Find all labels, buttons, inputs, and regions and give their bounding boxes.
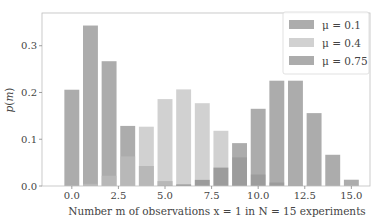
x-axis-label: Number m of observations x = 1 in N = 15…	[68, 205, 366, 217]
binomial-bar-chart: 0.00.10.20.3 0.02.55.07.510.012.515.0 p(…	[0, 0, 384, 221]
bar-series-1-m-7	[195, 103, 210, 186]
bar-series-1-m-3	[120, 156, 135, 186]
x-axis-ticks: 0.02.55.07.510.012.515.0	[64, 186, 363, 201]
bar-series-2-m-8	[213, 168, 228, 186]
y-tick-label: 0.0	[21, 181, 37, 192]
x-tick-label: 0.0	[64, 190, 80, 201]
bar-series-2-m-14	[325, 155, 340, 186]
legend: μ = 0.1μ = 0.4μ = 0.75	[283, 12, 369, 74]
y-axis-label: p(m)	[3, 88, 15, 113]
bar-series-1-m-2	[102, 176, 117, 186]
bar-series-0-m-2	[102, 61, 117, 186]
bar-series-2-m-15	[344, 180, 359, 186]
y-axis-ticks: 0.00.10.20.3	[21, 40, 42, 191]
bar-series-1-m-4	[139, 127, 154, 186]
bar-series-2-m-12	[288, 81, 303, 186]
legend-item-label: μ = 0.75	[322, 55, 368, 67]
x-tick-label: 12.5	[294, 190, 316, 201]
bar-series-0-m-0	[64, 90, 79, 186]
x-tick-label: 7.5	[204, 190, 220, 201]
y-tick-label: 0.3	[21, 40, 37, 51]
bar-series-1-m-5	[158, 99, 173, 186]
bar-series-2-m-11	[269, 81, 284, 186]
bar-series-2-m-13	[307, 113, 322, 186]
bar-series-2-m-9	[232, 143, 247, 186]
x-tick-label: 15.0	[340, 190, 362, 201]
x-tick-label: 5.0	[157, 190, 173, 201]
x-tick-label: 10.0	[247, 190, 269, 201]
bar-series-0-m-1	[83, 26, 98, 186]
bar-series-2-m-10	[251, 109, 266, 186]
legend-item-label: μ = 0.1	[322, 19, 361, 31]
x-tick-label: 2.5	[110, 190, 126, 201]
y-tick-label: 0.1	[21, 134, 37, 145]
bar-series-2-m-7	[195, 180, 210, 186]
y-tick-label: 0.2	[21, 87, 37, 98]
legend-item-label: μ = 0.4	[322, 37, 361, 49]
bar-series-1-m-6	[176, 89, 191, 186]
